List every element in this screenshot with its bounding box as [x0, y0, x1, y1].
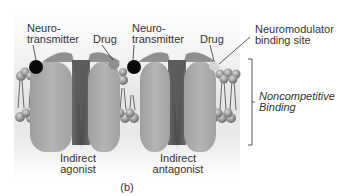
binding-site-label: Neuromodulator binding site — [255, 24, 334, 46]
ion-channel-left — [30, 52, 120, 152]
panel-label: (b) — [115, 182, 139, 193]
neurotransmitter-right — [127, 60, 141, 74]
drug-label-right: Drug — [200, 34, 224, 45]
neurotransmitter-left — [29, 60, 43, 74]
drug-right-binding-site — [209, 62, 220, 71]
neurotransmitter-label-left: Neuro- transmitter — [27, 23, 79, 45]
drug-left-agonist — [109, 59, 120, 70]
noncompetitive-bracket — [248, 59, 255, 145]
neurotransmitter-label-right: Neuro- transmitter — [132, 23, 184, 45]
drug-label-left: Drug — [93, 34, 117, 45]
noncompetitive-binding-diagram: Neuro- transmitter Drug Neuro- transmitt… — [0, 0, 343, 196]
noncompetitive-binding-label: Noncompetitive Binding — [259, 91, 335, 113]
caption-indirect-agonist: Indirect agonist — [50, 153, 106, 175]
ion-channel-right — [138, 52, 216, 152]
caption-indirect-antagonist: Indirect antagonist — [145, 153, 211, 175]
